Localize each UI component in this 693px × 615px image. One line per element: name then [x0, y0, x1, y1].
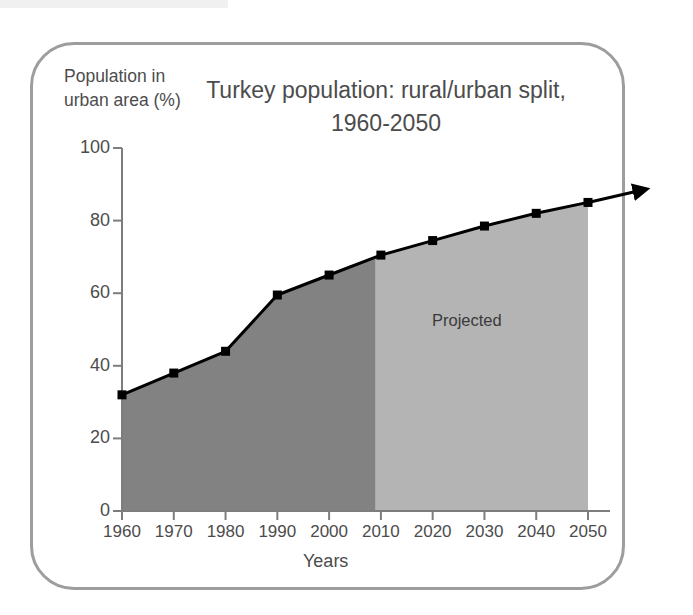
x-tick-label: 2020: [414, 522, 452, 542]
y-tick-label: 0: [40, 500, 110, 521]
chart-title-line-1: Turkey population: rural/urban split,: [206, 77, 566, 103]
y-tick-label: 100: [40, 137, 110, 158]
y-tick-label: 40: [40, 355, 110, 376]
x-axis-ticks: [122, 511, 588, 520]
x-tick-label: 2050: [569, 522, 607, 542]
x-tick-label: 1960: [103, 522, 141, 542]
y-axis-title-line-1: Population in: [64, 66, 165, 86]
y-tick-label: 60: [40, 282, 110, 303]
chart-title-line-2: 1960-2050: [331, 110, 441, 136]
x-tick-label: 1990: [258, 522, 296, 542]
x-tick-label: 1980: [207, 522, 245, 542]
area-fill-historical: [122, 257, 376, 511]
x-tick-label: 2010: [362, 522, 400, 542]
y-axis-title: Population inurban area (%): [64, 64, 181, 112]
x-tick-label: 2000: [310, 522, 348, 542]
y-axis-title-line-2: urban area (%): [64, 90, 181, 110]
chart-title: Turkey population: rural/urban split,196…: [186, 74, 586, 140]
trend-arrow-icon: [588, 192, 636, 203]
y-tick-label: 80: [40, 210, 110, 231]
y-tick-label: 20: [40, 427, 110, 448]
x-tick-label: 2040: [517, 522, 555, 542]
x-tick-label: 2030: [466, 522, 504, 542]
y-axis-ticks: [113, 148, 122, 511]
x-axis-title: Years: [303, 551, 348, 572]
x-tick-label: 1970: [155, 522, 193, 542]
projected-region-label: Projected: [432, 311, 502, 330]
